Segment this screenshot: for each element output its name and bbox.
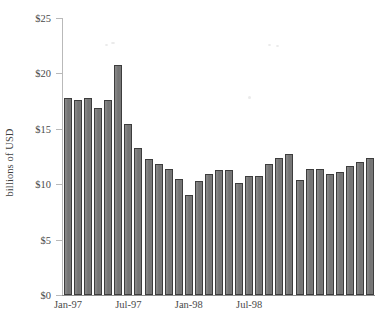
bar (336, 172, 344, 295)
bar (94, 108, 102, 295)
scan-speck (248, 96, 251, 99)
x-axis-tick-label: Jan-97 (54, 299, 82, 310)
bar (134, 148, 142, 295)
y-axis-tick-label: $0 (41, 290, 52, 301)
bar (346, 166, 354, 295)
scan-speck (276, 45, 279, 47)
y-axis-tick: $0 (56, 295, 62, 296)
bar (114, 65, 122, 295)
scan-speck (111, 42, 115, 44)
bar (215, 170, 223, 295)
scan-speck (268, 44, 271, 46)
bar (74, 100, 82, 295)
bar (145, 159, 153, 295)
y-axis-tick: $25 (56, 18, 62, 19)
bar (124, 124, 132, 295)
bar (366, 158, 374, 295)
bar (275, 158, 283, 295)
y-axis-line (62, 18, 63, 295)
bar (285, 154, 293, 295)
bar (155, 164, 163, 295)
x-axis-tick-label: Jul-98 (236, 299, 262, 310)
y-axis-tick-label: $25 (35, 13, 51, 24)
bar (205, 174, 213, 295)
bar (84, 98, 92, 295)
x-axis-line (56, 295, 375, 296)
bar (64, 98, 72, 295)
bar (326, 174, 334, 295)
y-axis-tick: $10 (56, 184, 62, 185)
bar (245, 176, 253, 295)
bar (165, 169, 173, 295)
y-axis-tick-label: $10 (35, 179, 51, 190)
x-axis-tick-label: Jan-98 (175, 299, 203, 310)
bar (104, 100, 112, 295)
bar (255, 176, 263, 295)
plot-area: $0$5$10$15$20$25 Jan-97Jul-97Jan-98Jul-9… (63, 18, 375, 295)
y-axis-tick: $5 (56, 240, 62, 241)
scan-speck (105, 44, 108, 46)
bar (316, 169, 324, 295)
bar (175, 179, 183, 295)
bar (185, 195, 193, 295)
x-axis-tick-label: Jul-97 (115, 299, 141, 310)
y-axis-title-text: billions of USD (4, 128, 15, 196)
y-axis-tick-label: $5 (41, 234, 52, 245)
bar-chart: billions of USD $0$5$10$15$20$25 Jan-97J… (0, 0, 385, 324)
y-axis-tick-label: $20 (35, 68, 51, 79)
bar (225, 170, 233, 295)
y-axis-tick: $15 (56, 129, 62, 130)
y-axis-title: billions of USD (0, 0, 18, 324)
y-axis-tick: $20 (56, 73, 62, 74)
bar (356, 162, 364, 295)
bar (265, 164, 273, 295)
bar (306, 169, 314, 295)
bar (195, 181, 203, 295)
bar (235, 183, 243, 295)
bar (296, 180, 304, 295)
y-axis-tick-label: $15 (35, 123, 51, 134)
